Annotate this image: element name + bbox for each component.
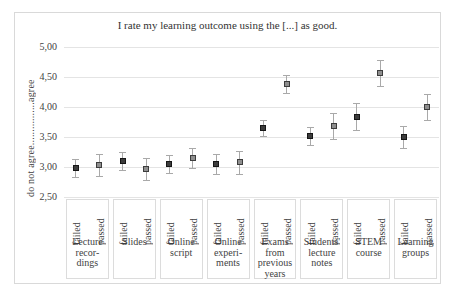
category-label: Students'lecturenotes bbox=[301, 237, 342, 269]
error-bar-cap-bottom bbox=[96, 176, 103, 177]
error-bar-cap-top bbox=[143, 158, 150, 159]
y-tick-label: 5,00 bbox=[23, 42, 57, 52]
error-bar-cap-top bbox=[353, 103, 360, 104]
y-tick-label: 4,00 bbox=[23, 102, 57, 112]
gridline bbox=[64, 137, 439, 138]
error-bar-cap-bottom bbox=[213, 174, 220, 175]
category-label: STEMcourse bbox=[348, 237, 389, 258]
data-point-failed-4 bbox=[260, 125, 266, 131]
chart-title: I rate my learning outcome using the [..… bbox=[15, 19, 440, 31]
category-label: Onlinescript bbox=[161, 237, 202, 258]
category-label-line: Students' bbox=[301, 237, 342, 248]
data-point-passed-2 bbox=[190, 155, 196, 161]
category-label-line: Slides bbox=[114, 237, 155, 248]
error-bar-cap-bottom bbox=[377, 86, 384, 87]
error-bar-cap-bottom bbox=[330, 139, 337, 140]
data-point-failed-2 bbox=[166, 161, 172, 167]
error-bar-cap-top bbox=[96, 154, 103, 155]
error-bar-cap-bottom bbox=[260, 136, 267, 137]
error-bar-cap-top bbox=[330, 113, 337, 114]
category-box: failedpassedLecturerecor-dings bbox=[66, 199, 109, 279]
category-label: Lecturerecor-dings bbox=[67, 237, 108, 269]
category-box: failedpassedSTEMcourse bbox=[347, 199, 390, 279]
category-label-line: STEM bbox=[348, 237, 389, 248]
category-label-line: Lecture bbox=[67, 237, 108, 248]
y-axis-label: do not agree................agree bbox=[25, 47, 39, 197]
gridline bbox=[64, 167, 439, 168]
y-tick-label: 3,00 bbox=[23, 162, 57, 172]
gridline bbox=[64, 107, 439, 108]
data-point-failed-1 bbox=[120, 158, 126, 164]
gridline bbox=[64, 77, 439, 78]
error-bar-cap-top bbox=[119, 152, 126, 153]
error-bar-cap-top bbox=[236, 151, 243, 152]
error-bar-cap-top bbox=[260, 120, 267, 121]
error-bar-cap-top bbox=[424, 94, 431, 95]
error-bar-cap-bottom bbox=[236, 174, 243, 175]
category-box: failedpassedExamsfrompreviousyears bbox=[254, 199, 297, 279]
y-tick-label: 2,50 bbox=[23, 192, 57, 202]
data-point-passed-6 bbox=[377, 70, 383, 76]
data-point-passed-7 bbox=[424, 104, 430, 110]
error-bar-cap-top bbox=[213, 154, 220, 155]
category-label-line: Exams bbox=[255, 237, 296, 248]
data-point-passed-5 bbox=[331, 123, 337, 129]
error-bar-cap-bottom bbox=[283, 93, 290, 94]
category-label-line: years bbox=[255, 269, 296, 280]
category-label: Slides bbox=[114, 237, 155, 248]
error-bar-cap-top bbox=[377, 60, 384, 61]
category-label-line: script bbox=[161, 248, 202, 259]
data-point-passed-0 bbox=[96, 162, 102, 168]
category-box: failedpassedStudents'lecturenotes bbox=[300, 199, 343, 279]
y-tick-label: 3,50 bbox=[23, 132, 57, 142]
error-bar-cap-top bbox=[400, 126, 407, 127]
error-bar-cap-bottom bbox=[424, 120, 431, 121]
error-bar-cap-bottom bbox=[143, 180, 150, 181]
error-bar-cap-top bbox=[72, 159, 79, 160]
data-point-passed-3 bbox=[237, 159, 243, 165]
error-bar-cap-top bbox=[307, 127, 314, 128]
error-bar-cap-bottom bbox=[119, 170, 126, 171]
category-label-line: dings bbox=[67, 258, 108, 269]
category-label: Examsfrompreviousyears bbox=[255, 237, 296, 279]
chart-canvas: I rate my learning outcome using the [..… bbox=[0, 0, 453, 300]
error-bar-cap-top bbox=[189, 148, 196, 149]
error-bar-cap-top bbox=[166, 155, 173, 156]
category-box: failedpassedLearninggroups bbox=[394, 199, 437, 279]
plot-area bbox=[64, 47, 439, 197]
data-point-failed-6 bbox=[354, 114, 360, 120]
category-label-line: course bbox=[348, 248, 389, 259]
category-label-line: groups bbox=[395, 248, 436, 259]
error-bar-cap-bottom bbox=[189, 168, 196, 169]
error-bar-cap-top bbox=[283, 75, 290, 76]
category-label-line: Learning bbox=[395, 237, 436, 248]
data-point-passed-4 bbox=[284, 81, 290, 87]
error-bar-cap-bottom bbox=[353, 130, 360, 131]
y-tick-label: 4,50 bbox=[23, 72, 57, 82]
data-point-failed-7 bbox=[401, 134, 407, 140]
error-bar-cap-bottom bbox=[400, 148, 407, 149]
category-label: Learninggroups bbox=[395, 237, 436, 258]
data-point-failed-0 bbox=[73, 165, 79, 171]
error-bar-cap-bottom bbox=[307, 145, 314, 146]
data-point-passed-1 bbox=[143, 166, 149, 172]
gridline bbox=[64, 197, 439, 198]
category-box: failedpassedOnlinescript bbox=[160, 199, 203, 279]
error-bar-cap-bottom bbox=[166, 173, 173, 174]
error-bar-cap-bottom bbox=[72, 177, 79, 178]
category-label: Onlineexperi-ments bbox=[208, 237, 249, 269]
category-label-line: ments bbox=[208, 258, 249, 269]
category-label-line: Online bbox=[208, 237, 249, 248]
category-box: failedpassedSlides bbox=[113, 199, 156, 279]
gridline bbox=[64, 47, 439, 48]
chart-frame: I rate my learning outcome using the [..… bbox=[14, 12, 441, 284]
category-label-line: Online bbox=[161, 237, 202, 248]
category-label-line: notes bbox=[301, 258, 342, 269]
data-point-failed-5 bbox=[307, 133, 313, 139]
data-point-failed-3 bbox=[213, 161, 219, 167]
category-box: failedpassedOnlineexperi-ments bbox=[207, 199, 250, 279]
category-label-line: previous bbox=[255, 258, 296, 269]
